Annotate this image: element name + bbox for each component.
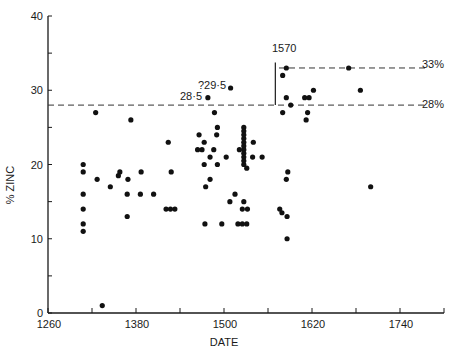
data-point (207, 154, 212, 159)
data-point (172, 206, 177, 211)
annotation-28-5: 28·5 (180, 90, 202, 102)
data-point (81, 221, 86, 226)
annotation-29-5: ?29·5 (198, 79, 226, 91)
y-axis-label: % ZINC (4, 166, 16, 205)
data-point (241, 199, 246, 204)
data-point (81, 162, 86, 167)
x-tick-label: 1380 (125, 318, 149, 330)
data-point (284, 177, 289, 182)
y-tick-label: 20 (31, 159, 43, 171)
data-point (251, 140, 256, 145)
line-28-label: 28% (422, 98, 444, 110)
data-point (311, 88, 316, 93)
data-point (169, 169, 174, 174)
data-point (211, 147, 216, 152)
data-point (368, 184, 373, 189)
reference-lines (48, 63, 426, 106)
x-tick-label: 1620 (301, 318, 325, 330)
data-point (196, 132, 201, 137)
data-point (260, 154, 265, 159)
data-point (284, 65, 289, 70)
data-point (284, 95, 289, 100)
data-point (125, 192, 130, 197)
line-33-label: 33% (422, 58, 444, 70)
data-point (228, 85, 233, 90)
data-point (81, 206, 86, 211)
data-point (138, 192, 143, 197)
data-point (284, 236, 289, 241)
data-point (212, 110, 217, 115)
x-axis-label: DATE (210, 336, 239, 348)
data-point (224, 154, 229, 159)
data-point (199, 147, 204, 152)
data-point (244, 166, 249, 171)
data-point (81, 169, 86, 174)
data-point (288, 103, 293, 108)
data-point (100, 303, 105, 308)
data-point (139, 169, 144, 174)
data-point (81, 192, 86, 197)
data-point (244, 221, 249, 226)
data-point (202, 221, 207, 226)
data-point (125, 214, 130, 219)
data-point (358, 88, 363, 93)
data-point (117, 169, 122, 174)
y-tick-label: 40 (31, 10, 43, 22)
data-point (214, 132, 219, 137)
data-point (240, 206, 245, 211)
x-tick-label: 1500 (213, 318, 237, 330)
data-point (215, 125, 220, 130)
marker-1570-label: 1570 (272, 42, 296, 54)
x-tick-label: 1740 (389, 318, 413, 330)
data-point (245, 206, 250, 211)
data-point (128, 117, 133, 122)
data-point (280, 73, 285, 78)
data-point (227, 199, 232, 204)
y-tick-label: 10 (31, 233, 43, 245)
data-point (205, 95, 210, 100)
data-point (151, 192, 156, 197)
data-point (81, 229, 86, 234)
data-point (207, 177, 212, 182)
data-point (93, 110, 98, 115)
data-point (95, 177, 100, 182)
data-point (250, 154, 255, 159)
annotations: 1570 33% 28% ?29·5 28·5 DATE % ZINC (4, 42, 444, 348)
data-point (219, 221, 224, 226)
data-point (304, 117, 309, 122)
zinc-date-scatter-chart: 01020304012601380150016201740 1570 33% 2… (0, 0, 451, 354)
data-point (279, 210, 284, 215)
y-tick-label: 30 (31, 84, 43, 96)
data-point (203, 184, 208, 189)
plot-svg: 01020304012601380150016201740 1570 33% 2… (0, 0, 451, 354)
data-point (215, 162, 220, 167)
data-point (284, 214, 289, 219)
data-point (108, 184, 113, 189)
x-tick-label: 1260 (37, 318, 61, 330)
axes: 01020304012601380150016201740 (31, 10, 444, 330)
data-point (306, 95, 311, 100)
data-point (202, 162, 207, 167)
data-points (81, 65, 374, 308)
data-point (305, 110, 310, 115)
data-point (232, 192, 237, 197)
data-point (125, 177, 130, 182)
data-point (346, 65, 351, 70)
data-point (166, 140, 171, 145)
data-point (202, 140, 207, 145)
data-point (285, 169, 290, 174)
data-point (280, 110, 285, 115)
